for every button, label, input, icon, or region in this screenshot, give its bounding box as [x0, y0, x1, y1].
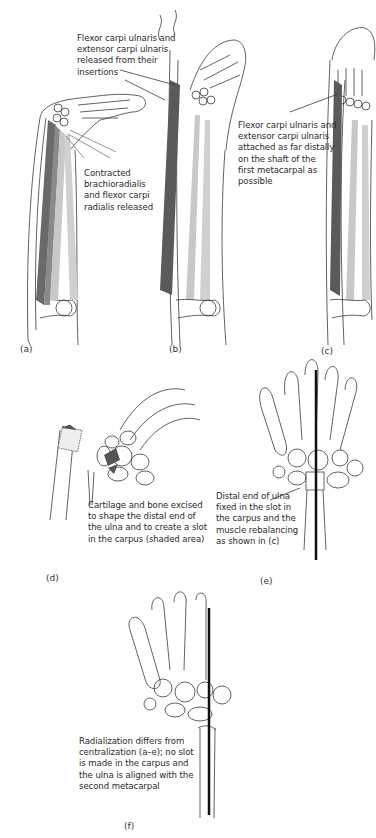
panel-label-f: (f) — [124, 821, 134, 831]
panel-label-a: (a) — [20, 344, 33, 354]
panel-label-e: (e) — [260, 576, 273, 586]
panel-label-d: (d) — [46, 573, 59, 583]
caption-c: Flexor carpi ulnaris and extensor carpi … — [238, 120, 358, 187]
caption-a: Contracted brachioradialis and flexor ca… — [84, 168, 184, 213]
surgical-illustration-figure: Flexor carpi ulnaris and extensor carpi … — [0, 0, 376, 838]
panel-label-c: (c) — [321, 346, 333, 356]
caption-e: Distal end of ulna fixed in the slot in … — [216, 491, 326, 547]
caption-b: Flexor carpi ulnaris and extensor carpi … — [77, 33, 197, 78]
panel-a-drawing — [28, 94, 146, 345]
caption-d: Cartilage and bone excised to shape the … — [88, 500, 208, 545]
caption-f: Radialization differs from centralizatio… — [79, 736, 209, 792]
panel-label-b: (b) — [169, 344, 182, 354]
